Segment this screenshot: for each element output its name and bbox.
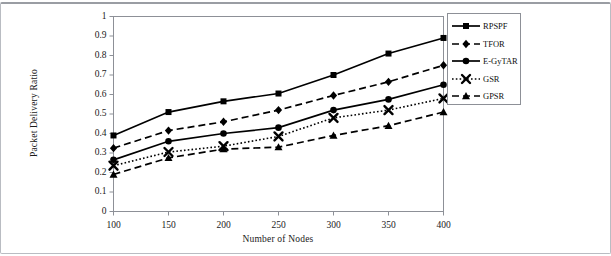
x-axis-tick-label: 400	[424, 220, 464, 230]
data-point-marker	[220, 130, 227, 137]
y-axis-tick-label: 0.9	[67, 30, 107, 40]
legend-label: GSR	[483, 74, 500, 84]
data-point-marker	[386, 51, 392, 57]
x-axis-title: Number of Nodes	[113, 234, 443, 244]
y-axis-title: Packet Delivery Ratio	[29, 33, 39, 193]
y-axis-tick-label: 0.4	[67, 128, 107, 138]
x-axis-tick-label: 250	[259, 220, 299, 230]
x-axis-tick-label: 300	[314, 220, 354, 230]
legend-label: RPSPF	[483, 21, 508, 31]
x-axis-tick-label: 200	[204, 220, 244, 230]
y-axis-tick-label: 0.3	[67, 147, 107, 157]
legend-marker	[462, 39, 469, 47]
legend-label: TFOR	[483, 39, 505, 49]
legend-item-e-gytar[interactable]: E-GyTAR	[448, 52, 522, 70]
chart-figure: Packet Delivery Ratio Number of Nodes 00…	[0, 0, 611, 256]
y-axis-tick-label: 0.8	[67, 50, 107, 60]
data-point-marker	[111, 132, 117, 138]
data-point-marker	[440, 81, 447, 88]
y-axis-tick-label: 1	[67, 11, 107, 21]
legend-item-tfor[interactable]: TFOR	[448, 35, 522, 53]
x-axis-tick-label: 150	[149, 220, 189, 230]
legend-item-rpspf[interactable]: RPSPF	[448, 17, 522, 35]
legend-item-gsr[interactable]: GSR	[448, 70, 522, 88]
legend-swatch-tfor	[451, 37, 481, 51]
legend-item-gpsr[interactable]: GPSR	[448, 87, 522, 105]
legend-label: E-GyTAR	[483, 56, 518, 66]
legend-swatch-rpspf	[451, 19, 481, 33]
data-point-marker	[165, 138, 172, 145]
x-axis-tick-label: 100	[94, 220, 134, 230]
chart-legend: RPSPFTFORE-GyTARGSRGPSR	[447, 13, 521, 105]
y-axis-tick-label: 0.6	[67, 89, 107, 99]
data-point-marker	[331, 72, 337, 78]
legend-swatch-e-gytar	[451, 54, 481, 68]
y-axis-tick-label: 0	[67, 206, 107, 216]
data-point-marker	[166, 109, 172, 115]
data-point-marker	[441, 35, 447, 41]
legend-swatch-gsr	[451, 72, 481, 86]
data-point-marker	[385, 96, 392, 103]
x-axis-ticks	[114, 212, 444, 216]
legend-swatch-gpsr	[451, 89, 481, 103]
y-axis-tick-label: 0.2	[67, 167, 107, 177]
data-point-marker	[275, 124, 282, 131]
data-point-marker	[276, 91, 282, 97]
y-axis-tick-label: 0.1	[67, 186, 107, 196]
data-point-marker	[221, 98, 227, 104]
legend-marker	[463, 58, 470, 65]
data-point-marker	[330, 107, 337, 114]
y-axis-ticks	[110, 17, 114, 212]
legend-marker	[463, 23, 469, 29]
y-axis-tick-label: 0.7	[67, 69, 107, 79]
legend-label: GPSR	[483, 91, 504, 101]
y-axis-tick-label: 0.5	[67, 108, 107, 118]
x-axis-tick-label: 350	[369, 220, 409, 230]
